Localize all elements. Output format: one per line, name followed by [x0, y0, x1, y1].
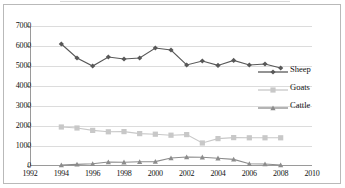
data-point-marker: [90, 63, 95, 68]
data-point-marker: [121, 56, 126, 61]
x-axis-tick-label: 1998: [109, 169, 139, 178]
data-point-marker: [106, 129, 111, 134]
data-point-marker: [137, 55, 142, 60]
chart-container: 01000200030004000500060007000 1992199419…: [0, 0, 345, 188]
data-point-marker: [184, 132, 189, 137]
data-point-marker: [90, 128, 95, 133]
chart-legend: Sheep Goats Cattle: [258, 63, 342, 117]
x-axis-tick-label: 2006: [234, 169, 264, 178]
data-point-marker: [153, 45, 158, 50]
data-point-marker: [121, 129, 126, 134]
data-point-marker: [168, 133, 173, 138]
data-point-marker: [231, 135, 236, 140]
legend-key-goats-icon: [258, 87, 288, 93]
data-point-marker: [247, 135, 252, 140]
legend-item-goats[interactable]: Goats: [258, 81, 342, 99]
legend-label-goats: Goats: [290, 82, 310, 93]
legend-key-sheep-icon: [258, 69, 288, 75]
series-sheep: [59, 41, 284, 70]
data-point-marker: [247, 62, 252, 67]
data-point-marker: [215, 63, 220, 68]
data-point-marker: [215, 136, 220, 141]
x-axis-tick-label: 2010: [297, 169, 327, 178]
data-point-marker: [278, 135, 283, 140]
x-axis-tick-label: 1996: [78, 169, 108, 178]
x-axis-tick-label: 2002: [172, 169, 202, 178]
legend-key-cattle-icon: [258, 105, 288, 111]
data-point-marker: [231, 58, 236, 63]
series-goats: [59, 124, 284, 145]
x-axis-tick-label: 2008: [266, 169, 296, 178]
y-axis-tick-label: 4000: [3, 82, 31, 90]
legend-item-cattle[interactable]: Cattle: [258, 99, 342, 117]
x-axis-tick-label: 1994: [46, 169, 76, 178]
legend-label-sheep: Sheep: [290, 64, 311, 75]
y-axis-tick-label: 2000: [3, 122, 31, 130]
y-axis-tick-label: 5000: [3, 62, 31, 70]
y-axis-tick-label: 7000: [3, 22, 31, 30]
x-axis-tick-label: 2004: [203, 169, 233, 178]
data-point-marker: [200, 140, 205, 145]
x-axis-tick-label: 2000: [140, 169, 170, 178]
data-point-marker: [106, 54, 111, 59]
data-point-marker: [262, 135, 267, 140]
legend-item-sheep[interactable]: Sheep: [258, 63, 342, 81]
data-point-marker: [59, 124, 64, 129]
data-point-marker: [74, 125, 79, 130]
data-point-marker: [200, 58, 205, 63]
y-axis-tick-label: 3000: [3, 102, 31, 110]
legend-label-cattle: Cattle: [290, 100, 310, 111]
data-point-marker: [137, 131, 142, 136]
y-axis-tick-label: 1000: [3, 142, 31, 150]
y-axis-tick-label: 6000: [3, 42, 31, 50]
top-edge-artifact: [60, 1, 290, 2]
x-axis-tick-label: 1992: [15, 169, 45, 178]
data-point-marker: [153, 132, 158, 137]
series-cattle: [59, 154, 284, 167]
